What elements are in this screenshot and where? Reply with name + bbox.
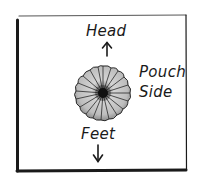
pouch-icon bbox=[75, 66, 131, 121]
head-label: Head bbox=[86, 24, 126, 39]
side-label: Side bbox=[139, 85, 173, 100]
diagram-canvas: Head Pouch Side Feet bbox=[0, 0, 198, 182]
up-arrow-icon bbox=[103, 43, 112, 57]
down-arrow-icon bbox=[94, 145, 103, 162]
feet-label: Feet bbox=[81, 127, 115, 142]
pouch-label: Pouch bbox=[139, 65, 186, 80]
